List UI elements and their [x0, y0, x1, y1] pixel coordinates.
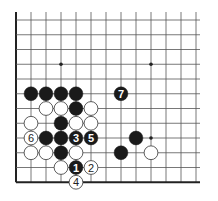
black-stone-icon: [54, 116, 68, 130]
white-stone-icon: [69, 146, 83, 160]
black-stone-icon: [39, 87, 53, 101]
move-number-label: 6: [28, 132, 34, 144]
black-stone-icon: [54, 131, 68, 145]
white-stone: [144, 146, 158, 160]
move-number-label: 5: [88, 132, 94, 144]
white-stone-icon: [39, 146, 53, 160]
white-stone: [24, 116, 38, 130]
move-number-label: 4: [73, 176, 79, 188]
white-stone-move-6: 6: [24, 131, 38, 145]
white-stone: [69, 116, 83, 130]
black-stone-move-7: 7: [114, 87, 128, 101]
black-stone: [54, 146, 68, 160]
black-stone-icon: [69, 87, 83, 101]
white-stone: [39, 102, 53, 116]
white-stone-icon: [24, 146, 38, 160]
star-point-icon: [149, 136, 153, 140]
black-stone-move-1: 1: [69, 161, 83, 175]
white-stone-move-4: 4: [69, 175, 83, 189]
black-stone: [24, 87, 38, 101]
star-point-icon: [149, 62, 153, 66]
black-stone: [69, 87, 83, 101]
black-stone-move-5: 5: [84, 131, 98, 145]
white-stone: [69, 146, 83, 160]
white-stone: [84, 116, 98, 130]
white-stone-icon: [69, 116, 83, 130]
stones: 7635124: [24, 87, 158, 189]
white-stone-icon: [24, 116, 38, 130]
black-stone-icon: [129, 131, 143, 145]
black-stone-icon: [114, 146, 128, 160]
black-stone-icon: [39, 131, 53, 145]
move-number-label: 7: [118, 88, 124, 100]
black-stone: [69, 102, 83, 116]
white-stone: [24, 146, 38, 160]
white-stone: [84, 102, 98, 116]
white-stone-icon: [84, 102, 98, 116]
black-stone: [129, 131, 143, 145]
white-stone-move-2: 2: [84, 161, 98, 175]
black-stone-icon: [54, 146, 68, 160]
black-stone-icon: [24, 87, 38, 101]
move-number-label: 1: [73, 162, 79, 174]
white-stone-icon: [54, 102, 68, 116]
white-stone-icon: [54, 161, 68, 175]
black-stone: [54, 87, 68, 101]
move-number-label: 3: [73, 132, 79, 144]
black-stone-icon: [54, 87, 68, 101]
white-stone-icon: [39, 102, 53, 116]
black-stone-icon: [69, 102, 83, 116]
black-stone: [114, 146, 128, 160]
white-stone-icon: [84, 116, 98, 130]
black-stone: [54, 131, 68, 145]
go-board: 7635124: [0, 0, 218, 201]
white-stone: [54, 102, 68, 116]
black-stone: [39, 131, 53, 145]
black-stone: [39, 87, 53, 101]
white-stone: [54, 161, 68, 175]
black-stone-move-3: 3: [69, 131, 83, 145]
white-stone-icon: [144, 146, 158, 160]
black-stone: [54, 116, 68, 130]
star-point-icon: [59, 62, 63, 66]
white-stone: [39, 146, 53, 160]
move-number-label: 2: [88, 162, 94, 174]
